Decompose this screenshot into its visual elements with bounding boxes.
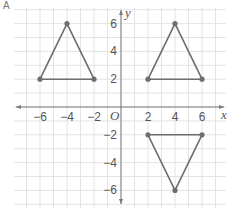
x-tick-label: 2 bbox=[145, 110, 152, 124]
origin-label: O bbox=[110, 108, 120, 123]
x-axis-label: x bbox=[220, 107, 227, 122]
y-tick-label: −2 bbox=[103, 128, 117, 142]
y-tick-label: 4 bbox=[110, 44, 117, 58]
x-tick-label: −4 bbox=[60, 110, 74, 124]
vertex-point bbox=[172, 188, 177, 193]
x-axis-arrow-left-icon bbox=[16, 105, 21, 109]
x-tick-label: 6 bbox=[199, 110, 206, 124]
vertex-point bbox=[199, 77, 204, 82]
grid-lines bbox=[14, 8, 226, 208]
vertex-point bbox=[91, 77, 96, 82]
coordinate-plane: −6−4−2246642−2−4−6 A x y O bbox=[0, 0, 233, 214]
y-axis-arrow-down-icon bbox=[119, 199, 123, 204]
corner-label: A bbox=[3, 0, 10, 11]
vertex-point bbox=[37, 77, 42, 82]
x-tick-label: 4 bbox=[172, 110, 179, 124]
vertex-point bbox=[145, 132, 150, 137]
y-tick-label: 2 bbox=[110, 72, 117, 86]
x-tick-label: −6 bbox=[33, 110, 47, 124]
y-tick-label: 6 bbox=[110, 17, 117, 31]
vertex-point bbox=[172, 21, 177, 26]
axes bbox=[16, 10, 224, 204]
y-axis-label: y bbox=[123, 5, 131, 20]
y-tick-label: −6 bbox=[103, 183, 117, 197]
vertex-point bbox=[145, 77, 150, 82]
x-tick-label: −2 bbox=[87, 110, 101, 124]
vertex-point bbox=[199, 132, 204, 137]
vertex-point bbox=[64, 21, 69, 26]
y-tick-label: −4 bbox=[103, 156, 117, 170]
y-axis-arrow-up-icon bbox=[119, 10, 123, 15]
